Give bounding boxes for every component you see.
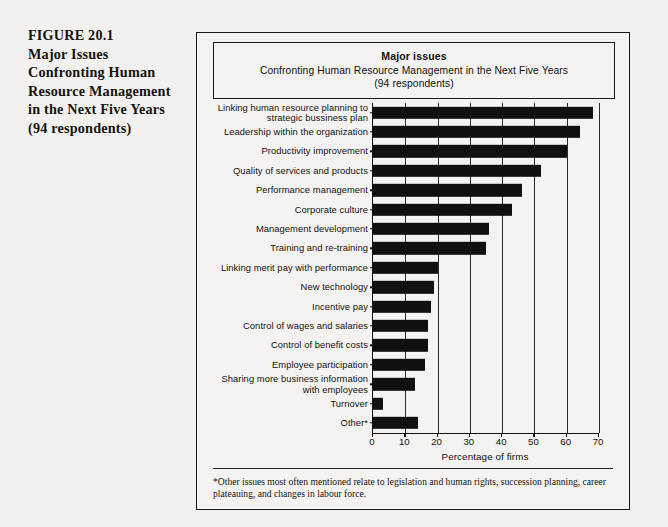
chart-row: Other* — [373, 413, 599, 432]
bar-category-label: New technology — [196, 282, 368, 292]
x-axis-tick-label: 40 — [496, 436, 507, 447]
chart-row: New technology — [373, 278, 599, 297]
x-axis-tick-label: 30 — [464, 436, 475, 447]
chart-row: Quality of services and products — [373, 161, 599, 180]
x-axis-tick-label: 10 — [399, 436, 410, 447]
bar — [373, 417, 418, 429]
figure-caption: FIGURE 20.1 Major Issues Confronting Hum… — [28, 26, 178, 137]
bar — [373, 165, 541, 177]
bar-category-label: Linking human resource planning to strat… — [196, 102, 368, 123]
x-axis-tick-label: 60 — [560, 436, 571, 447]
chart-bars-container: Linking human resource planning to strat… — [372, 103, 599, 433]
chart-row: Corporate culture — [373, 200, 599, 219]
chart-row: Management development — [373, 219, 599, 238]
footnote-divider — [213, 468, 613, 469]
chart-plot-area: Linking human resource planning to strat… — [197, 103, 631, 462]
bar-category-label: Performance management — [196, 185, 368, 195]
bar — [373, 281, 434, 293]
bar-category-label: Quality of services and products — [196, 166, 368, 176]
chart-row: Performance management — [373, 181, 599, 200]
chart-title-box: Major issues Confronting Human Resource … — [213, 42, 615, 99]
figure-caption-line: Confronting Human — [28, 63, 178, 82]
chart-row: Incentive pay — [373, 297, 599, 316]
bar-category-label: Training and re-training — [196, 243, 368, 253]
bar — [373, 126, 580, 138]
chart-row: Turnover — [373, 394, 599, 413]
bar-category-label: Productivity improvement — [196, 146, 368, 156]
chart-row: Linking human resource planning to strat… — [373, 103, 599, 122]
bar — [373, 397, 383, 409]
chart-row: Sharing more business information with e… — [373, 374, 599, 393]
bar — [373, 242, 486, 254]
chart-row: Linking merit pay with performance — [373, 258, 599, 277]
figure-caption-line: Resource Management — [28, 82, 178, 101]
bar-category-label: Corporate culture — [196, 204, 368, 214]
gridline — [599, 103, 600, 433]
chart-row: Productivity improvement — [373, 142, 599, 161]
chart-title-subtitle: Confronting Human Resource Management in… — [220, 64, 608, 77]
bar-category-label: Linking merit pay with performance — [196, 263, 368, 273]
bar-category-label: Other* — [196, 418, 368, 428]
figure-frame: Major issues Confronting Human Resource … — [196, 32, 630, 510]
bar — [373, 359, 425, 371]
figure-caption-line: in the Next Five Years — [28, 100, 178, 119]
bar — [373, 320, 428, 332]
x-axis-title: Percentage of firms — [372, 451, 598, 462]
bar — [373, 378, 415, 390]
bar — [373, 339, 428, 351]
footnote-text: *Other issues most often mentioned relat… — [213, 476, 615, 501]
figure-caption-line: (94 respondents) — [28, 119, 178, 138]
figure-caption-line: Major Issues — [28, 45, 178, 64]
chart-row: Training and re-training — [373, 239, 599, 258]
x-axis-tick-label: 0 — [369, 436, 374, 447]
bar-category-label: Sharing more business information with e… — [196, 374, 368, 395]
bar-category-label: Turnover — [196, 398, 368, 408]
bar-category-label: Employee participation — [196, 360, 368, 370]
chart-row: Control of benefit costs — [373, 336, 599, 355]
chart-title-main: Major issues — [220, 50, 608, 62]
bar — [373, 184, 522, 196]
bar-category-label: Control of benefit costs — [196, 340, 368, 350]
chart-row: Control of wages and salaries — [373, 316, 599, 335]
chart-title-respondents: (94 respondents) — [220, 77, 608, 90]
bar-category-label: Control of wages and salaries — [196, 321, 368, 331]
bar — [373, 223, 489, 235]
bar-category-label: Leadership within the organization — [196, 127, 368, 137]
bar — [373, 145, 567, 157]
x-axis-tick-label: 70 — [593, 436, 604, 447]
figure-caption-line: FIGURE 20.1 — [28, 26, 178, 45]
bar — [373, 262, 438, 274]
bar — [373, 203, 512, 215]
chart-row: Employee participation — [373, 355, 599, 374]
bar-category-label: Incentive pay — [196, 301, 368, 311]
bar-category-label: Management development — [196, 224, 368, 234]
x-axis-tick-labels: 010203040506070 — [372, 434, 598, 448]
chart-row: Leadership within the organization — [373, 122, 599, 141]
x-axis-tick-label: 20 — [431, 436, 442, 447]
x-axis-tick-label: 50 — [528, 436, 539, 447]
bar — [373, 106, 593, 118]
bar — [373, 300, 431, 312]
